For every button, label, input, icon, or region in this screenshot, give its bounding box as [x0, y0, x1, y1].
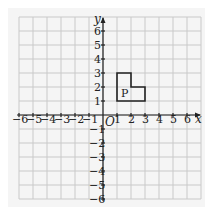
- y-axis-label: y: [93, 12, 101, 26]
- shape-p-label: P: [121, 87, 129, 100]
- y-tick-label: 1: [94, 95, 101, 108]
- y-tick-label: 3: [94, 67, 101, 80]
- y-axis-arrow-icon: [101, 17, 106, 23]
- y-tick-label: 5: [94, 39, 101, 52]
- x-axis-label: x: [195, 112, 202, 126]
- y-tick-label: 6: [94, 25, 101, 38]
- y-tick-label: 2: [94, 81, 101, 94]
- coordinate-plane: xyO−6−5−4−3−2−1123456654321−1−2−3−4−5−6P: [0, 0, 212, 214]
- y-tick-label: 4: [94, 53, 101, 66]
